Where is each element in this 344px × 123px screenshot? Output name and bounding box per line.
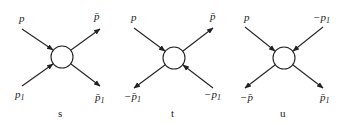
- vertex-circle: [163, 47, 185, 69]
- incoming-leg-p: [22, 29, 53, 50]
- outgoing-leg-pbar1: [71, 64, 100, 86]
- outgoing-leg-minus-pbar: [245, 65, 275, 88]
- incoming-leg-p: [134, 28, 165, 51]
- diagram-t-channel: p p̄ −p̄1 −p1 t: [124, 10, 221, 119]
- caption-u: u: [280, 107, 286, 119]
- outgoing-leg-pbar: [183, 28, 213, 51]
- caption-t: t: [171, 107, 174, 119]
- incoming-leg-p1: [22, 64, 53, 86]
- label-minus-p1: −p1: [313, 11, 330, 25]
- label-pbar: p̄: [209, 10, 216, 22]
- label-minus-p1: −p1: [204, 88, 221, 102]
- outgoing-leg-pbar: [71, 29, 100, 50]
- vertex-circle: [51, 46, 73, 68]
- label-p: p: [18, 12, 25, 24]
- outgoing-leg-minus-pbar1: [134, 65, 165, 88]
- label-p: p: [243, 11, 250, 23]
- label-p1: p1: [14, 88, 25, 102]
- label-pbar: p̄: [93, 10, 100, 22]
- vertex-circle: [273, 47, 295, 69]
- diagram-u-channel: p −p1 −p̄ p̄1 u: [240, 11, 330, 119]
- incoming-leg-minus-p1: [183, 65, 213, 88]
- label-pbar1: p̄1: [319, 91, 330, 105]
- label-minus-pbar: −p̄: [240, 91, 253, 103]
- diagram-s-channel: p p̄ p1 p̄1 s: [14, 10, 105, 119]
- incoming-leg-p: [245, 27, 275, 51]
- caption-s: s: [58, 107, 62, 119]
- label-pbar1: p̄1: [94, 91, 105, 105]
- crossing-channel-diagrams: p p̄ p1 p̄1 s p p̄ −p̄1 −p1 t p −p1 −p̄: [0, 0, 344, 123]
- incoming-leg-minus-p1: [293, 27, 323, 51]
- label-minus-pbar1: −p̄1: [124, 90, 141, 104]
- outgoing-leg-pbar1: [293, 65, 323, 88]
- label-p: p: [130, 11, 137, 23]
